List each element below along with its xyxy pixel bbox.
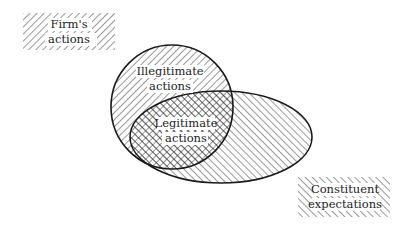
- region-label-legitimate-1: Legitimate: [155, 116, 218, 130]
- venn-diagram: Firm's actions Illegitimate actions Legi…: [0, 0, 413, 233]
- legend-label-firms-actions-1: Firm's: [50, 17, 87, 31]
- legend-label-firms-actions-2: actions: [48, 32, 90, 46]
- region-label-illegitimate-1: Illegitimate: [136, 64, 203, 78]
- region-label-illegitimate-2: actions: [149, 79, 191, 93]
- legend-label-constituent-2: expectations: [308, 197, 382, 211]
- region-label-legitimate-2: actions: [165, 131, 207, 145]
- legend-label-constituent-1: Constituent: [311, 182, 380, 196]
